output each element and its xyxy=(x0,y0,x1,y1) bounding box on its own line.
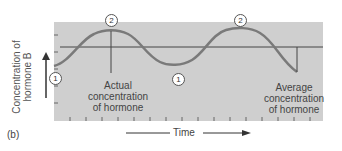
x-axis-ticks xyxy=(70,117,310,121)
panel-label: (b) xyxy=(7,129,19,140)
marker-1-low: 1 xyxy=(172,73,185,86)
time-arrow-icon xyxy=(242,130,251,136)
y-arrow-icon xyxy=(42,52,50,60)
marker-2-peak: 2 xyxy=(105,14,118,27)
average-concentration-label: Average concentration of hormone xyxy=(262,82,326,115)
actual-concentration-label: Actual concentration of hormone xyxy=(85,80,151,113)
actual-concentration-curve xyxy=(54,28,297,72)
marker-2-peak: 2 xyxy=(234,14,247,27)
y-axis-label-box: Concentration of hormone B xyxy=(6,40,36,120)
marker-1-low: 1 xyxy=(49,72,62,85)
x-axis-label: Time xyxy=(173,127,195,138)
y-axis-ticks xyxy=(54,35,58,103)
y-axis-label: Concentration of hormone B xyxy=(11,35,33,119)
